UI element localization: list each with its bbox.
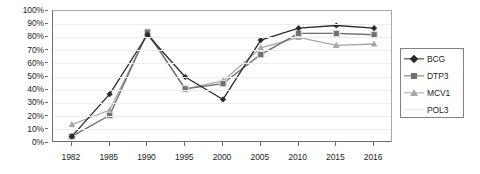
legend-item-dtp3[interactable]: DTP3: [401, 67, 465, 84]
y-axis-tick: [45, 76, 48, 77]
data-point: [333, 30, 339, 36]
y-axis-tick: [45, 142, 48, 143]
y-axis-tick-label: 40%: [27, 85, 44, 94]
data-point: [371, 25, 377, 31]
x-axis-tick: [109, 142, 110, 146]
x-axis-tick-label: 1985: [99, 152, 118, 162]
y-axis-tick: [45, 102, 48, 103]
legend-label: POL3: [427, 105, 448, 115]
x-axis-tick: [146, 142, 147, 146]
x-axis-tick: [184, 142, 185, 146]
gridline: [53, 103, 391, 104]
x-axis-tick: [71, 142, 72, 146]
y-axis-tick-label: 0%: [32, 138, 44, 147]
data-point: [220, 96, 226, 102]
legend-label: DTP3: [427, 71, 448, 81]
legend-label: BCG: [427, 54, 445, 64]
line-chart: 0%10%20%30%40%50%60%70%80%90%100% 198219…: [0, 0, 480, 174]
y-axis-tick: [45, 89, 48, 90]
y-axis-tick: [45, 128, 48, 129]
y-axis-tick-label: 10%: [27, 124, 44, 133]
legend-key: [401, 52, 427, 66]
x-axis: 198219851990199520002005201020152016: [52, 146, 392, 168]
y-axis-tick: [45, 23, 48, 24]
legend-key: [401, 69, 427, 83]
y-axis-tick-label: 50%: [27, 72, 44, 81]
series-mcv1: [68, 30, 377, 127]
x-axis-tick-label: 2015: [326, 152, 345, 162]
legend-item-pol3[interactable]: POL3: [401, 101, 465, 118]
gridline: [53, 90, 391, 91]
legend-item-mcv1[interactable]: MCV1: [401, 84, 465, 101]
y-axis-tick: [45, 36, 48, 37]
y-axis-tick: [45, 115, 48, 116]
series-dtp3: [69, 29, 377, 139]
data-point: [220, 81, 226, 87]
x-axis-tick-label: 1982: [62, 152, 81, 162]
x-axis-tick-label: 2010: [288, 152, 307, 162]
y-axis-tick-label: 100%: [23, 6, 44, 15]
gridline: [53, 24, 391, 25]
legend-key: [401, 86, 427, 100]
data-point: [295, 30, 301, 36]
x-axis-tick: [222, 142, 223, 146]
x-axis-tick-label: 1995: [175, 152, 194, 162]
x-axis-tick: [335, 142, 336, 146]
y-axis-tick-label: 80%: [27, 32, 44, 41]
y-axis-tick: [45, 10, 48, 11]
x-axis-tick: [260, 142, 261, 146]
y-axis-tick-label: 20%: [27, 111, 44, 120]
y-axis-tick-label: 30%: [27, 98, 44, 107]
chart-legend: BCGDTP3MCV1POL3: [400, 48, 464, 118]
legend-key: [401, 103, 427, 117]
gridline: [53, 129, 391, 130]
legend-line: [404, 109, 424, 110]
legend-label: MCV1: [427, 88, 450, 98]
gridline: [53, 116, 391, 117]
x-axis-tick: [298, 142, 299, 146]
x-axis-tick-label: 1990: [137, 152, 156, 162]
plot-area: [52, 10, 392, 142]
y-axis-tick: [45, 49, 48, 50]
gridline: [53, 63, 391, 64]
legend-item-bcg[interactable]: BCG: [401, 50, 465, 67]
legend-marker-square-icon: [411, 73, 417, 79]
legend-marker-diamond-icon: [410, 54, 418, 62]
x-axis-tick-label: 2016: [364, 152, 383, 162]
y-axis-tick-label: 90%: [27, 19, 44, 28]
x-axis-tick-label: 2005: [251, 152, 270, 162]
x-axis-tick: [373, 142, 374, 146]
y-axis: 0%10%20%30%40%50%60%70%80%90%100%: [0, 0, 48, 174]
gridline: [53, 77, 391, 78]
y-axis-tick: [45, 62, 48, 63]
y-axis-tick-label: 70%: [27, 45, 44, 54]
data-point: [258, 51, 264, 57]
gridline: [53, 50, 391, 51]
legend-marker-triangle-icon: [410, 89, 418, 96]
y-axis-tick-label: 60%: [27, 58, 44, 67]
gridline: [53, 37, 391, 38]
x-axis-tick-label: 2000: [213, 152, 232, 162]
